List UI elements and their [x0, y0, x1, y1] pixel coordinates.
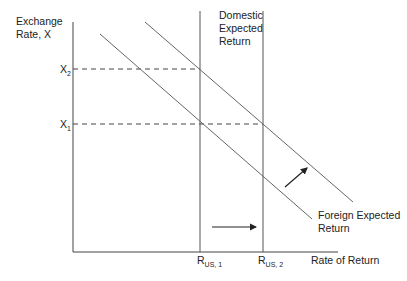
foreign-label-line1: Foreign Expected — [318, 209, 400, 221]
x1-tick-label: X1 — [60, 118, 71, 132]
domestic-label-line3: Return — [219, 35, 251, 47]
rus2-tick-label: RUS, 2 — [258, 254, 283, 268]
foreign-return-curve-shifted — [145, 22, 353, 202]
domestic-label-line1: Domestic — [219, 9, 263, 21]
x2-tick-label: X2 — [60, 63, 71, 77]
exchange-rate-diagram: Exchange Rate, X X2 X1 Domestic Expected… — [0, 0, 407, 281]
foreign-shift-arrow — [285, 168, 307, 187]
y-axis-label-line2: Rate, X — [16, 28, 51, 40]
foreign-label-line2: Return — [318, 222, 350, 234]
domestic-label-line2: Expected — [219, 22, 263, 34]
x-axis-label: Rate of Return — [311, 254, 379, 266]
rus1-tick-label: RUS, 1 — [197, 254, 222, 268]
foreign-return-curve-initial — [100, 34, 312, 219]
y-axis-label-line1: Exchange — [16, 15, 63, 27]
